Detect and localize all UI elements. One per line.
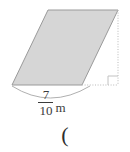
base-measure-brace	[12, 86, 90, 98]
geometry-figure-screenshot: 7 10 m (	[0, 0, 130, 152]
parallelogram-shape	[12, 10, 118, 85]
right-angle-marker-icon	[108, 76, 118, 85]
parallelogram-diagram	[0, 0, 130, 152]
